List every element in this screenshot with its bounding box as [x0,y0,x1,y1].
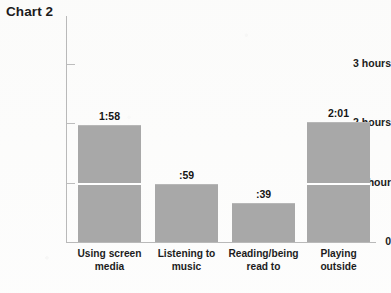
chart-title: Chart 2 [6,4,53,19]
x-category-label: Using screen media [69,248,151,273]
bar-value-label: :59 [155,169,218,181]
one-hour-gridline [78,183,141,185]
x-category-label: Reading/being read to [218,248,310,273]
bar-value-label: 2:01 [307,107,370,119]
bar[interactable] [155,184,218,242]
bar-value-label: 1:58 [78,110,141,122]
x-category-label: Playing outside [304,248,374,273]
bar[interactable] [232,203,295,242]
x-category-label: Listening to music [146,248,228,273]
x-axis-line [66,242,376,243]
plot-area: 1:58:59:392:01 [67,16,376,242]
one-hour-gridline [307,183,370,185]
bar-value-label: :39 [232,188,295,200]
chart-container: Chart 2 01 hour2 hours3 hours 1:58:59:39… [0,0,391,293]
